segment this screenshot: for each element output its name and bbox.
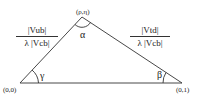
vtd-numerator: |Vtd| [130, 26, 170, 37]
gamma-angle-label: γ [40, 71, 44, 81]
apex-vertex-label: (ρ,η) [76, 9, 90, 16]
left-side-ratio: |Vub| λ |Vcb| [16, 26, 58, 48]
right-denominator: λ |Vcb| [130, 37, 170, 48]
left-denominator: λ |Vcb| [16, 37, 58, 48]
unitarity-triangle-diagram: (ρ,η) (0,0) (0,1) α γ β |Vub| λ |Vcb| |V… [0, 0, 203, 99]
alpha-angle-label: α [80, 30, 85, 40]
right-side-ratio: |Vtd| λ |Vcb| [130, 26, 170, 48]
alpha-arc [75, 23, 91, 28]
gamma-arc [32, 70, 39, 83]
beta-angle-label: β [157, 70, 162, 80]
triangle-graphic [0, 0, 203, 99]
beta-arc [163, 73, 166, 84]
unit-vertex-label: (0,1) [176, 87, 189, 94]
origin-vertex-label: (0,0) [3, 87, 16, 94]
vub-numerator: |Vub| [16, 26, 58, 37]
